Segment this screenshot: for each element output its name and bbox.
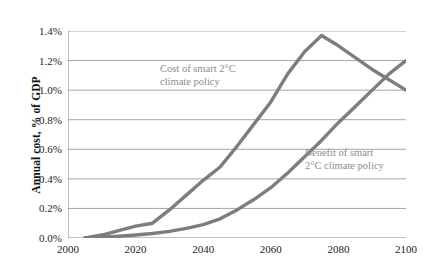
x-tick-label: 2040: [192, 243, 214, 255]
series-annotation-cost-line2: climate policy: [160, 76, 236, 89]
x-tick-label: 2020: [125, 243, 147, 255]
series-line-cost: [85, 35, 406, 238]
y-tick-label: 0.4%: [24, 173, 62, 185]
y-tick-label: 1.4%: [24, 25, 62, 37]
chart-canvas: [68, 31, 406, 238]
series-annotation-benefit-line2: 2°C climate policy: [305, 160, 384, 173]
y-tick-label: 0.8%: [24, 114, 62, 126]
series-annotation-benefit-line1: Benefit of smart: [305, 147, 384, 160]
x-axis-tick-labels: 200020202040206020802100: [68, 243, 406, 263]
chart-figure: Annual cost, % of GDP 0.0%0.2%0.4%0.6%0.…: [0, 0, 432, 270]
series-annotation-benefit: Benefit of smart 2°C climate policy: [305, 147, 384, 172]
y-tick-label: 0.2%: [24, 202, 62, 214]
y-tick-label: 0.6%: [24, 143, 62, 155]
y-tick-label: 1.2%: [24, 55, 62, 67]
y-axis-tick-labels: 0.0%0.2%0.4%0.6%0.8%1.0%1.2%1.4%: [24, 0, 62, 270]
series-annotation-cost-line1: Cost of smart 2°C: [160, 63, 236, 76]
x-tick-label: 2000: [57, 243, 79, 255]
x-tick-label: 2060: [260, 243, 282, 255]
plot-area: [68, 31, 406, 238]
y-tick-label: 1.0%: [24, 84, 62, 96]
data-series-lines: [85, 35, 406, 238]
x-tick-label: 2080: [327, 243, 349, 255]
x-tick-label: 2100: [395, 243, 417, 255]
series-annotation-cost: Cost of smart 2°C climate policy: [160, 63, 236, 88]
